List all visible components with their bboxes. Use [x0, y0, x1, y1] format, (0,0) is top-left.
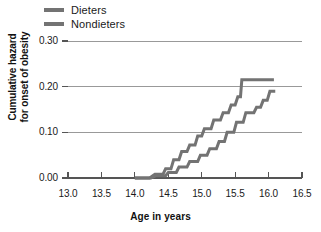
plot-area — [0, 0, 321, 232]
series-line-dieters — [135, 80, 274, 178]
series-line-nondieters — [135, 91, 275, 178]
cumulative-hazard-chart: Dieters Nondieters Cumulative hazard for… — [0, 0, 321, 232]
